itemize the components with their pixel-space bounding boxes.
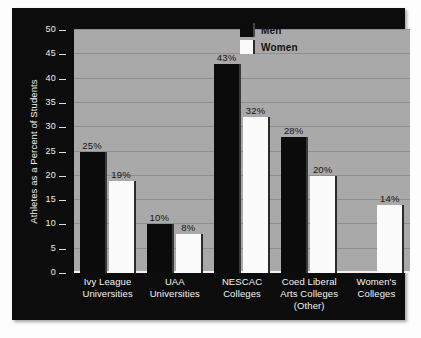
y-tick-mark-20 xyxy=(59,176,66,177)
x-axis-label-line: Ivy League xyxy=(75,276,140,288)
ghost-text xyxy=(28,306,368,318)
y-tick-label-35: 35 xyxy=(30,98,56,107)
y-tick-mark-50 xyxy=(59,30,66,31)
chart-figure: Athletes as a Percent of Students 051015… xyxy=(0,0,421,338)
legend-swatch-men xyxy=(240,23,255,37)
chart-legend: MenWomen xyxy=(240,23,298,54)
bar-value-label: 25% xyxy=(82,140,102,151)
plot-area: 25%10%43%28%19%8%32%20%14% xyxy=(74,30,410,273)
bar-men-1[interactable]: 10% xyxy=(147,224,174,273)
y-tick-label-20: 20 xyxy=(30,171,56,180)
bar-men-3[interactable]: 28% xyxy=(281,137,308,273)
x-axis-label-line: Universities xyxy=(142,288,207,300)
y-tick-mark-45 xyxy=(59,54,66,55)
y-tick-label-30: 30 xyxy=(30,122,56,131)
y-tick-mark-25 xyxy=(59,152,66,153)
bar-value-label: 19% xyxy=(111,169,131,180)
bar-value-label: 20% xyxy=(313,164,333,175)
legend-label: Women xyxy=(261,42,298,53)
y-tick-mark-35 xyxy=(59,103,66,104)
y-tick-mark-10 xyxy=(59,224,66,225)
bar-women-0[interactable]: 19% xyxy=(109,181,136,273)
y-tick-mark-40 xyxy=(59,79,66,80)
x-axis-label-line: Colleges xyxy=(344,288,409,300)
bar-men-0[interactable]: 25% xyxy=(80,152,107,274)
y-tick-mark-30 xyxy=(59,127,66,128)
y-tick-mark-15 xyxy=(59,200,66,201)
bar-value-label: 10% xyxy=(149,212,169,223)
x-axis-label-line: Coed Liberal xyxy=(277,276,342,288)
legend-item-women[interactable]: Women xyxy=(240,40,298,54)
x-axis-label-line: Universities xyxy=(75,288,140,300)
y-tick-mark-5 xyxy=(59,249,66,250)
y-tick-label-50: 50 xyxy=(30,25,56,34)
bar-value-label: 8% xyxy=(181,222,195,233)
x-axis-label-line: Women's xyxy=(344,276,409,288)
bars-layer: 25%10%43%28%19%8%32%20%14% xyxy=(74,30,410,273)
bar-women-3[interactable]: 20% xyxy=(310,176,337,273)
x-axis-label-line: Colleges xyxy=(209,288,274,300)
x-axis-label-line: Arts Colleges xyxy=(277,288,342,300)
y-tick-label-40: 40 xyxy=(30,74,56,83)
chart-panel: Athletes as a Percent of Students 051015… xyxy=(12,8,405,320)
bar-women-2[interactable]: 32% xyxy=(243,117,270,273)
bar-value-label: 14% xyxy=(380,193,400,204)
x-axis-label-line: UAA xyxy=(142,276,207,288)
y-tick-label-0: 0 xyxy=(30,268,56,277)
legend-label: Men xyxy=(261,25,282,36)
y-tick-mark-0 xyxy=(59,273,66,274)
y-tick-label-5: 5 xyxy=(30,244,56,253)
bar-men-2[interactable]: 43% xyxy=(214,64,241,273)
bar-women-4[interactable]: 14% xyxy=(377,205,404,273)
legend-item-men[interactable]: Men xyxy=(240,23,298,37)
y-tick-label-45: 45 xyxy=(30,49,56,58)
y-tick-label-15: 15 xyxy=(30,195,56,204)
bar-women-1[interactable]: 8% xyxy=(176,234,203,273)
x-axis-label-line: NESCAC xyxy=(209,276,274,288)
y-tick-label-25: 25 xyxy=(30,147,56,156)
y-tick-label-10: 10 xyxy=(30,219,56,228)
bar-value-label: 28% xyxy=(284,125,304,136)
bar-value-label: 32% xyxy=(246,105,266,116)
bar-value-label: 43% xyxy=(217,52,237,63)
legend-swatch-women xyxy=(240,40,255,54)
